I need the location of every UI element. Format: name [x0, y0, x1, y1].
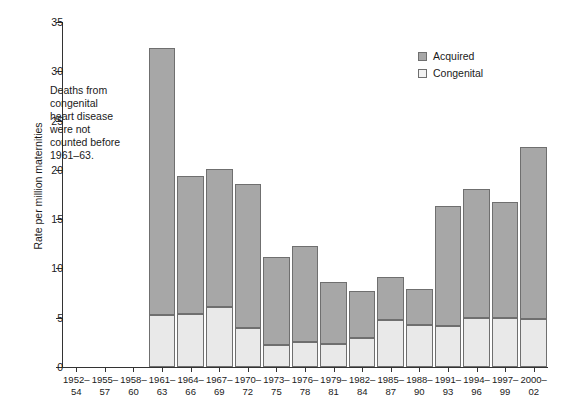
legend-label-congenital: Congenital	[433, 67, 483, 79]
bar-segment-congenital	[377, 320, 404, 367]
bar-2000–02	[520, 148, 547, 367]
bar-segment-congenital	[235, 328, 262, 367]
bar-segment-acquired	[349, 291, 376, 338]
bar-segment-acquired	[520, 147, 547, 319]
bar-1976–78	[292, 247, 319, 367]
bar-segment-acquired	[235, 184, 262, 328]
y-tick-label: 5	[37, 313, 63, 323]
x-tick-mark	[191, 367, 192, 372]
y-tick: 20	[0, 170, 63, 171]
y-tick: 0	[0, 367, 63, 368]
bar-segment-congenital	[349, 338, 376, 367]
bar-segment-acquired	[263, 257, 290, 346]
x-tick-mark	[362, 367, 363, 372]
bar-1973–75	[263, 258, 290, 367]
x-tick-mark	[76, 367, 77, 372]
bar-segment-acquired	[320, 282, 347, 344]
bar-segment-congenital	[177, 314, 204, 367]
chart-legend: Acquired Congenital	[418, 50, 483, 84]
bar-segment-acquired	[377, 277, 404, 319]
y-tick-label: 35	[37, 17, 63, 27]
x-tick-mark	[133, 367, 134, 372]
acquired-swatch-icon	[418, 52, 427, 61]
y-tick-label: 30	[37, 66, 63, 76]
bar-1964–66	[177, 177, 204, 367]
x-tick-mark	[105, 367, 106, 372]
x-tick-mark	[534, 367, 535, 372]
bar-1970–72	[235, 185, 262, 367]
y-tick: 10	[0, 268, 63, 269]
y-tick-label: 20	[37, 165, 63, 175]
bar-1988–90	[406, 290, 433, 367]
x-tick-mark	[477, 367, 478, 372]
stacked-bar-chart: Rate per million maternities 05101520253…	[0, 0, 561, 405]
bar-segment-congenital	[263, 345, 290, 367]
congenital-swatch-icon	[418, 69, 427, 78]
y-tick: 5	[0, 318, 63, 319]
bar-1982–84	[349, 292, 376, 367]
legend-item-congenital: Congenital	[418, 67, 483, 79]
bar-segment-congenital	[206, 307, 233, 367]
x-tick-mark	[419, 367, 420, 372]
bar-segment-acquired	[463, 189, 490, 318]
bar-segment-acquired	[435, 206, 462, 325]
bar-segment-acquired	[292, 246, 319, 343]
y-tick: 35	[0, 22, 63, 23]
y-tick: 15	[0, 219, 63, 220]
x-tick-mark	[276, 367, 277, 372]
bar-segment-acquired	[406, 289, 433, 325]
x-tick-mark	[391, 367, 392, 372]
bar-segment-acquired	[177, 176, 204, 314]
bar-1997–99	[492, 203, 519, 367]
bar-segment-congenital	[320, 344, 347, 367]
bar-segment-acquired	[492, 202, 519, 317]
y-tick: 30	[0, 71, 63, 72]
bar-segment-congenital	[149, 315, 176, 367]
x-tick-mark	[219, 367, 220, 372]
x-tick-mark	[162, 367, 163, 372]
x-tick-label: 2000– 02	[516, 374, 551, 398]
y-tick-label: 15	[37, 214, 63, 224]
bar-1979–81	[320, 283, 347, 367]
x-tick-mark	[248, 367, 249, 372]
bar-segment-congenital	[435, 326, 462, 367]
x-tick-mark	[505, 367, 506, 372]
x-tick-mark	[334, 367, 335, 372]
bar-segment-congenital	[463, 318, 490, 367]
chart-annotation: Deaths from congenital heart disease wer…	[50, 84, 155, 162]
bar-segment-congenital	[406, 325, 433, 367]
bar-1985–87	[377, 278, 404, 367]
bar-segment-congenital	[292, 342, 319, 367]
y-tick-label: 10	[37, 263, 63, 273]
bar-segment-congenital	[520, 319, 547, 367]
bar-1967–69	[206, 170, 233, 367]
legend-label-acquired: Acquired	[433, 50, 474, 62]
bar-1994–96	[463, 190, 490, 367]
bar-segment-congenital	[492, 318, 519, 367]
legend-item-acquired: Acquired	[418, 50, 483, 62]
x-tick-mark	[448, 367, 449, 372]
bar-segment-acquired	[206, 169, 233, 307]
x-tick-mark	[305, 367, 306, 372]
bar-1991–93	[435, 207, 462, 367]
y-tick-label: 0	[37, 362, 63, 372]
